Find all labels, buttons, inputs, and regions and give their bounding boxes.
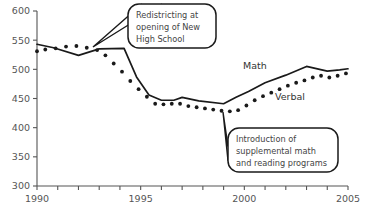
verbal-data-point — [95, 48, 99, 52]
verbal-data-point — [178, 102, 182, 106]
verbal-data-point — [145, 95, 149, 99]
supplemental-programs-callout-line: supplemental math — [236, 146, 316, 156]
annotations-group: Redistricting atopening of NewHigh Schoo… — [93, 4, 338, 172]
redistricting-callout-line: opening of New — [136, 22, 200, 32]
y-tick-label: 550 — [12, 35, 30, 46]
redistricting-callout[interactable]: Redistricting atopening of NewHigh Schoo… — [93, 4, 216, 48]
verbal-data-point — [120, 70, 124, 74]
verbal-data-point — [170, 102, 174, 106]
x-tick-label: 2005 — [336, 193, 360, 204]
verbal-data-point — [43, 48, 47, 52]
x-axis: 1990199520002005 — [25, 186, 360, 204]
chart-canvas: 300350400450500550600 1990199520002005 M… — [0, 0, 365, 215]
verbal-data-point — [128, 79, 132, 83]
verbal-data-point — [211, 108, 215, 112]
supplemental-programs-callout[interactable]: Introduction ofsupplemental mathand read… — [223, 112, 338, 172]
redistricting-callout-line: High School — [136, 34, 185, 44]
verbal-data-point — [153, 102, 157, 106]
verbal-data-point — [137, 87, 141, 91]
verbal-data-point — [311, 76, 315, 80]
verbal-data-point — [54, 46, 58, 50]
sat-scores-chart: 300350400450500550600 1990199520002005 M… — [0, 0, 365, 215]
verbal-data-point — [336, 74, 340, 78]
verbal-data-point — [319, 74, 323, 78]
verbal-data-point — [195, 105, 199, 109]
verbal-data-point — [228, 109, 232, 113]
verbal-data-point — [245, 104, 249, 108]
verbal-data-point — [104, 53, 108, 57]
supplemental-programs-callout-line: and reading programs — [236, 158, 327, 168]
verbal-data-point — [327, 76, 331, 80]
verbal-data-point — [85, 46, 89, 50]
x-tick-label: 1990 — [25, 193, 49, 204]
verbal-data-point — [303, 79, 307, 83]
verbal-data-point — [203, 107, 207, 111]
verbal-data-point — [269, 91, 273, 95]
verbal-data-point — [162, 102, 166, 106]
verbal-data-point — [112, 62, 116, 66]
verbal-data-point — [253, 98, 257, 102]
verbal-data-point — [35, 49, 39, 53]
y-tick-label: 400 — [12, 122, 30, 133]
x-tick-label: 2000 — [232, 193, 256, 204]
verbal-data-point — [294, 81, 298, 85]
verbal-data-point — [186, 104, 190, 108]
y-tick-label: 350 — [12, 151, 30, 162]
math-series-label: Math — [243, 60, 267, 71]
verbal-data-point — [286, 84, 290, 88]
y-tick-label: 300 — [12, 180, 30, 191]
verbal-data-point — [64, 45, 68, 49]
verbal-data-point — [236, 108, 240, 112]
y-axis: 300350400450500550600 — [12, 5, 37, 191]
y-tick-label: 500 — [12, 64, 30, 75]
verbal-data-point — [344, 72, 348, 76]
y-tick-label: 600 — [12, 5, 30, 16]
data-series-group — [35, 44, 348, 113]
verbal-data-point — [261, 94, 265, 98]
verbal-data-point — [74, 44, 78, 48]
y-tick-label: 450 — [12, 93, 30, 104]
supplemental-programs-callout-line: Introduction of — [236, 134, 297, 144]
verbal-series-label: Verbal — [275, 91, 305, 102]
redistricting-callout-line: Redistricting at — [136, 10, 199, 20]
x-tick-label: 1995 — [129, 193, 153, 204]
